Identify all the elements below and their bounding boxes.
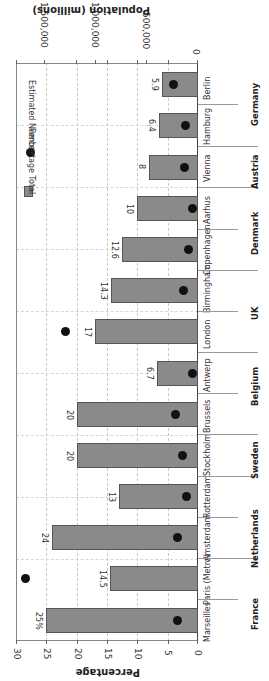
category-label: Paris (Metro) bbox=[203, 554, 212, 605]
dot-brussels bbox=[171, 410, 180, 419]
dot-stockholm bbox=[178, 451, 187, 460]
value-label: 25% bbox=[34, 612, 43, 630]
value-label: 10 bbox=[125, 204, 134, 214]
dot-rotterdam bbox=[182, 492, 191, 501]
tick-mark bbox=[197, 640, 198, 644]
tick-mark bbox=[168, 640, 169, 644]
tick-mark bbox=[107, 60, 108, 64]
value-label: 6.4 bbox=[147, 119, 156, 132]
left-axis-tick: 10 bbox=[133, 648, 143, 659]
bar-berlin bbox=[162, 72, 198, 97]
group-label-belgium: Belgium bbox=[250, 367, 260, 406]
dot-london bbox=[61, 327, 70, 336]
bar-london bbox=[95, 319, 198, 344]
dot-hamburg bbox=[181, 121, 190, 130]
value-label: 14.5 bbox=[98, 570, 107, 588]
group-separator bbox=[198, 270, 258, 271]
dot-amsterdam bbox=[173, 533, 182, 542]
group-label-denmark: Denmark bbox=[250, 212, 260, 255]
left-axis-tick: 25 bbox=[42, 648, 52, 659]
tick-mark bbox=[137, 640, 138, 644]
tick-mark bbox=[46, 640, 47, 644]
dot-birmingham bbox=[179, 286, 188, 295]
group-separator bbox=[198, 517, 238, 518]
value-label: 24 bbox=[40, 533, 49, 543]
tick-mark bbox=[95, 60, 96, 64]
group-label-netherlands: Netherlands bbox=[250, 509, 260, 568]
dot-berlin bbox=[169, 80, 178, 89]
left-axis-tick: 0 bbox=[193, 650, 203, 656]
category-label: Rotterdam bbox=[203, 476, 212, 518]
value-label: 17 bbox=[83, 327, 92, 337]
category-label: Berlin bbox=[203, 77, 212, 100]
group-separator bbox=[198, 599, 238, 600]
category-label: Hamburg bbox=[203, 108, 212, 145]
group-label-sweden: Sweden bbox=[250, 441, 260, 479]
right-axis-tick: 0 bbox=[191, 49, 201, 55]
tick-mark bbox=[16, 640, 17, 644]
value-label: 8 bbox=[137, 164, 146, 169]
group-separator bbox=[198, 229, 238, 230]
group-separator bbox=[198, 352, 258, 353]
group-label-germany: Germany bbox=[250, 83, 260, 126]
tick-mark bbox=[197, 60, 198, 64]
group-label-austria: Austria bbox=[250, 154, 260, 189]
left-axis-tick: 5 bbox=[163, 650, 173, 656]
tick-mark bbox=[168, 60, 169, 64]
value-label: 20 bbox=[65, 451, 74, 461]
group-label-france: France bbox=[250, 598, 260, 630]
category-label: Aarhus bbox=[203, 196, 212, 224]
category-label: Birmingham bbox=[203, 264, 212, 313]
tick-mark bbox=[137, 60, 138, 64]
group-separator bbox=[198, 146, 258, 147]
group-separator bbox=[198, 187, 258, 188]
group-separator bbox=[198, 104, 238, 105]
legend-label-dot: Estimated Number bbox=[27, 80, 36, 155]
group-separator bbox=[198, 476, 258, 477]
left-axis-tick: 15 bbox=[103, 648, 113, 659]
category-label: Brussels bbox=[203, 400, 212, 434]
value-label: 13 bbox=[107, 492, 116, 502]
dot-vienna bbox=[180, 163, 189, 172]
category-label: Vienna bbox=[203, 155, 212, 182]
plot-area bbox=[16, 63, 198, 641]
category-label: Marseilles bbox=[203, 602, 212, 642]
group-separator bbox=[198, 558, 258, 559]
dot-marseilles bbox=[173, 616, 182, 625]
value-label: 5.9 bbox=[150, 78, 159, 91]
value-label: 12.6 bbox=[110, 241, 119, 259]
category-label: Stockholm bbox=[203, 434, 212, 476]
right-axis-title: Population (millions) bbox=[32, 5, 150, 16]
group-separator bbox=[198, 311, 238, 312]
group-label-uk: UK bbox=[250, 307, 260, 321]
tick-mark bbox=[76, 60, 77, 64]
tick-mark bbox=[107, 640, 108, 644]
bar-vienna bbox=[149, 155, 198, 180]
left-axis-title: Percentage bbox=[76, 667, 140, 678]
tick-mark bbox=[146, 60, 147, 64]
left-axis-tick: 30 bbox=[12, 648, 22, 659]
dot-paris bbox=[21, 574, 30, 583]
category-label: London bbox=[203, 320, 212, 349]
dot-antwerp bbox=[188, 369, 197, 378]
tick-mark bbox=[44, 60, 45, 64]
value-label: 14.3 bbox=[99, 282, 108, 300]
bar-paris bbox=[110, 566, 198, 591]
value-label: 20 bbox=[65, 410, 74, 420]
category-label: Antwerp bbox=[203, 358, 212, 392]
group-separator bbox=[198, 434, 258, 435]
tick-mark bbox=[77, 640, 78, 644]
bar-hamburg bbox=[159, 113, 198, 138]
dot-aarhus bbox=[188, 204, 197, 213]
left-axis-tick: 20 bbox=[73, 648, 83, 659]
tick-mark bbox=[16, 60, 17, 64]
dot-copenhagen bbox=[184, 245, 193, 254]
value-label: 6.7 bbox=[145, 367, 154, 380]
right-axis-tick: 500,000 bbox=[141, 12, 151, 49]
group-separator bbox=[198, 393, 238, 394]
